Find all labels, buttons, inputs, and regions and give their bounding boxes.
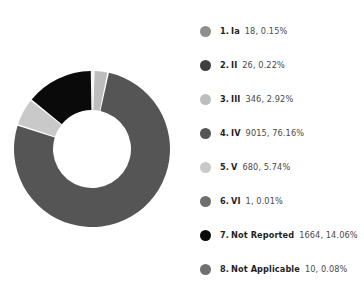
legend-swatch-icon	[200, 162, 211, 173]
legend-item-index: 1.	[220, 26, 229, 36]
legend-item[interactable]: 5.V680, 5.74%	[200, 150, 364, 184]
legend-swatch-icon	[200, 264, 211, 275]
legend-item-text: 1.Ia18, 0.15%	[220, 26, 287, 37]
legend-item[interactable]: 2.II26, 0.22%	[200, 48, 364, 82]
legend-item-text: 2.II26, 0.22%	[220, 60, 285, 71]
legend-item-label: V	[231, 162, 237, 172]
donut-slice-group	[14, 71, 170, 227]
legend-swatch-icon	[200, 196, 211, 207]
legend-item-label: III	[231, 94, 240, 104]
legend-swatch-icon	[200, 26, 211, 37]
legend-item-label: Ia	[231, 26, 240, 36]
legend-item-label: II	[231, 60, 237, 70]
legend-item-value: 680, 5.74%	[242, 162, 290, 172]
legend-item-text: 6.VI1, 0.01%	[220, 196, 283, 207]
legend-item-label: Not Reported	[231, 230, 294, 240]
legend-swatch-icon	[200, 94, 211, 105]
legend-item-index: 5.	[220, 162, 229, 172]
legend-item-index: 4.	[220, 128, 229, 138]
legend-item-text: 5.V680, 5.74%	[220, 162, 290, 173]
legend-item-index: 2.	[220, 60, 229, 70]
legend-item-index: 6.	[220, 196, 229, 206]
legend-item-text: 4.IV9015, 76.16%	[220, 128, 304, 139]
legend-item-text: 8.Not Applicable10, 0.08%	[220, 264, 347, 275]
legend-item[interactable]: 1.Ia18, 0.15%	[200, 14, 364, 48]
legend-item-value: 18, 0.15%	[245, 26, 288, 36]
legend-item-text: 3.III346, 2.92%	[220, 94, 293, 105]
legend-item-value: 10, 0.08%	[305, 264, 348, 274]
legend-item-label: IV	[231, 128, 241, 138]
legend-item-value: 1, 0.01%	[246, 196, 283, 206]
legend-item-value: 346, 2.92%	[245, 94, 293, 104]
legend-item[interactable]: 8.Not Applicable10, 0.08%	[200, 252, 364, 283]
donut-chart-svg	[13, 70, 171, 228]
legend-item-index: 7.	[220, 230, 229, 240]
legend-item-label: VI	[231, 196, 241, 206]
legend-item[interactable]: 7.Not Reported1664, 14.06%	[200, 218, 364, 252]
legend-item[interactable]: 4.IV9015, 76.16%	[200, 116, 364, 150]
donut-chart-figure: 1.Ia18, 0.15%2.II26, 0.22%3.III346, 2.92…	[0, 0, 364, 283]
legend-swatch-icon	[200, 60, 211, 71]
legend-item-index: 8.	[220, 264, 229, 274]
legend-item-value: 1664, 14.06%	[299, 230, 357, 240]
legend-item-text: 7.Not Reported1664, 14.06%	[220, 230, 358, 241]
legend-item-value: 26, 0.22%	[242, 60, 285, 70]
legend-swatch-icon	[200, 230, 211, 241]
legend-item-index: 3.	[220, 94, 229, 104]
donut-slice[interactable]	[93, 71, 94, 110]
legend-item[interactable]: 3.III346, 2.92%	[200, 82, 364, 116]
chart-legend: 1.Ia18, 0.15%2.II26, 0.22%3.III346, 2.92…	[200, 14, 364, 283]
legend-swatch-icon	[200, 128, 211, 139]
legend-item-value: 9015, 76.16%	[246, 128, 304, 138]
legend-item-label: Not Applicable	[231, 264, 300, 274]
donut-chart-plot	[13, 70, 171, 228]
legend-item[interactable]: 6.VI1, 0.01%	[200, 184, 364, 218]
